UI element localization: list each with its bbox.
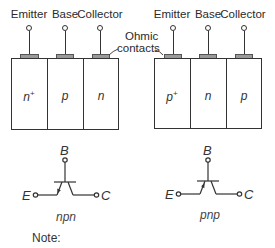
pnp-type-label: pnp	[200, 208, 220, 222]
npn-base-symbol-label: B	[60, 143, 69, 158]
pnp-emitter-symbol-label: E	[165, 187, 174, 202]
npn-emitter-symbol-label: E	[22, 188, 31, 203]
pnp-symbol-icon	[176, 158, 241, 196]
diagram-lines	[0, 0, 275, 248]
note-label: Note:	[32, 231, 61, 245]
npn-type-label: npn	[56, 210, 76, 224]
npn-symbol-icon	[33, 158, 98, 197]
pnp-base-symbol-label: B	[203, 143, 212, 158]
pnp-collector-symbol-label: C	[244, 187, 253, 202]
annotation-leader-npn	[109, 49, 118, 55]
npn-collector-symbol-label: C	[101, 188, 110, 203]
annotation-leader-pnp	[155, 50, 163, 55]
